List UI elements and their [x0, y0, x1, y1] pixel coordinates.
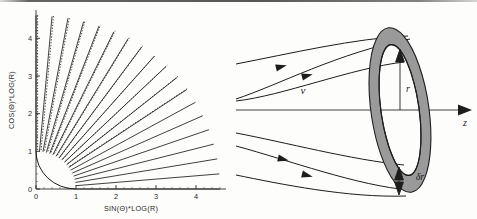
y-tick-label: 4 — [28, 34, 32, 43]
arrowhead-upper-1 — [275, 62, 287, 72]
ray-line — [50, 26, 99, 153]
x-tick-label: 0 — [34, 192, 38, 201]
y-tick-label: 0 — [28, 185, 32, 194]
ray-line-dashed — [48, 20, 85, 151]
ray-line — [39, 16, 52, 151]
z-axis — [236, 105, 472, 116]
x-tick-group: 01234 — [34, 185, 220, 201]
y-tick-label: 2 — [28, 109, 32, 118]
x-tick-label: 1 — [74, 192, 78, 201]
ray-line-dashed — [51, 25, 100, 152]
ray-group — [36, 14, 220, 189]
x-tick-label: 4 — [194, 192, 198, 201]
flux-tube-svg: z v — [235, 0, 477, 219]
y-tick-label: 3 — [28, 72, 32, 81]
left-panel-polar-plot: 01234 01234 SIN(Θ)*LOG(R) COS(Θ)*LOG(R) — [0, 0, 235, 219]
right-panel-flux-tube: z v — [235, 0, 477, 219]
velocity-label: v — [301, 84, 306, 96]
z-axis-arrowhead — [458, 105, 472, 116]
y-tick-label: 1 — [28, 147, 32, 156]
arrowhead-lower-2 — [301, 171, 313, 181]
ray-line-dashed — [70, 88, 188, 166]
z-label: z — [462, 117, 467, 128]
x-tick-label: 3 — [154, 192, 158, 201]
y-tick-group: 01234 — [28, 16, 40, 194]
ray-line-dashed — [65, 65, 167, 161]
ray-line — [76, 174, 219, 186]
thickness-label: δr — [416, 171, 425, 182]
radius-measure — [396, 49, 405, 110]
figure-container: 01234 01234 SIN(Θ)*LOG(R) COS(Θ)*LOG(R) … — [0, 0, 477, 219]
x-tick-label: 2 — [114, 192, 118, 201]
polar-plot-svg: 01234 01234 SIN(Θ)*LOG(R) COS(Θ)*LOG(R) — [0, 0, 235, 219]
radius-label: r — [406, 83, 410, 94]
x-axis-label: SIN(Θ)*LOG(R) — [104, 204, 158, 213]
y-axis-label: COS(Θ)*LOG(R) — [7, 71, 16, 129]
ray-line — [74, 130, 209, 176]
arrowhead-lower-1 — [277, 154, 289, 163]
